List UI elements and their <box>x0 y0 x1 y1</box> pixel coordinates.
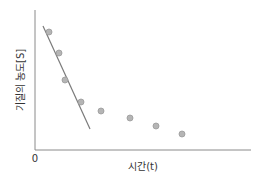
data-point <box>98 108 104 114</box>
data-point <box>78 99 84 105</box>
data-point <box>46 29 52 35</box>
data-point <box>127 115 133 121</box>
data-point <box>56 50 62 56</box>
data-point <box>153 123 159 129</box>
plot-area <box>43 26 185 137</box>
data-point <box>179 131 185 137</box>
y-axis-label: 기질의 농도[S] <box>15 49 26 111</box>
origin-label: 0 <box>32 153 38 164</box>
data-point <box>62 77 68 83</box>
x-axis-label: 시간(t) <box>128 161 158 172</box>
chart: 0 시간(t) 기질의 농도[S] <box>0 0 261 187</box>
